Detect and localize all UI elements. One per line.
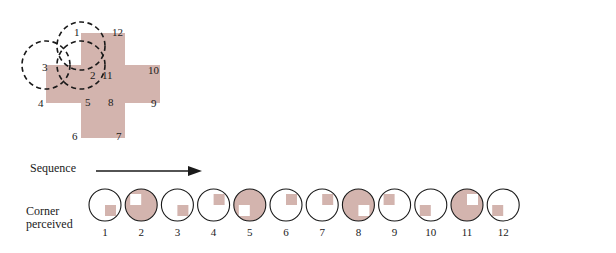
corner-sequence-label-4: 4 bbox=[204, 226, 224, 238]
corner-circle-patch-5 bbox=[239, 205, 250, 216]
corner-circle-4 bbox=[198, 189, 230, 221]
cross-vertex-label-8: 8 bbox=[108, 96, 114, 108]
cross-vertex-label-11: 11 bbox=[102, 69, 113, 81]
cross-vertex-label-10: 10 bbox=[148, 64, 159, 76]
cross-vertex-label-12: 12 bbox=[112, 26, 123, 38]
cross-vertex-label-6: 6 bbox=[72, 130, 78, 142]
cross-vertex-label-9: 9 bbox=[151, 97, 157, 109]
corner-circle-patch-4 bbox=[214, 194, 225, 205]
corner-circle-8 bbox=[342, 189, 374, 221]
corner-circle-9 bbox=[379, 189, 411, 221]
corner-sequence-row bbox=[0, 182, 616, 252]
corner-circle-11 bbox=[451, 189, 483, 221]
corner-circle-patch-2 bbox=[130, 194, 141, 205]
cross-vertex-label-5: 5 bbox=[85, 96, 91, 108]
corner-circle-3 bbox=[161, 189, 193, 221]
cross-vertex-label-4: 4 bbox=[38, 97, 44, 109]
corner-circle-patch-11 bbox=[467, 194, 478, 205]
corner-circle-patch-7 bbox=[322, 194, 333, 205]
cross-vertex-label-2: 2 bbox=[90, 69, 96, 81]
corner-sequence-label-1: 1 bbox=[95, 226, 115, 238]
corner-circle-12 bbox=[487, 189, 519, 221]
corner-sequence-label-7: 7 bbox=[312, 226, 332, 238]
corner-circle-patch-10 bbox=[420, 205, 431, 216]
corner-circle-5 bbox=[234, 189, 266, 221]
corner-sequence-label-11: 11 bbox=[457, 226, 477, 238]
cross-vertex-label-7: 7 bbox=[116, 130, 122, 142]
sequence-arrow-icon bbox=[96, 162, 316, 180]
corner-circle-patch-3 bbox=[177, 205, 188, 216]
corner-sequence-label-10: 10 bbox=[421, 226, 441, 238]
corner-sequence-label-2: 2 bbox=[131, 226, 151, 238]
sequence-label: Sequence bbox=[30, 161, 76, 176]
corner-circle-6 bbox=[270, 189, 302, 221]
corner-circle-patch-12 bbox=[492, 205, 503, 216]
corner-circle-10 bbox=[415, 189, 447, 221]
corner-sequence-label-12: 12 bbox=[493, 226, 513, 238]
corner-circle-patch-6 bbox=[286, 194, 297, 205]
figure-canvas: 123456789101112 Sequence Corner perceive… bbox=[0, 0, 616, 253]
corner-sequence-label-9: 9 bbox=[385, 226, 405, 238]
corner-circle-2 bbox=[125, 189, 157, 221]
corner-sequence-label-8: 8 bbox=[348, 226, 368, 238]
corner-circle-patch-1 bbox=[105, 205, 116, 216]
corner-circle-1 bbox=[89, 189, 121, 221]
cross-vertex-label-3: 3 bbox=[42, 61, 48, 73]
corner-sequence-label-6: 6 bbox=[276, 226, 296, 238]
corner-sequence-label-3: 3 bbox=[167, 226, 187, 238]
corner-circle-patch-9 bbox=[384, 194, 395, 205]
cross-vertex-label-1: 1 bbox=[74, 26, 80, 38]
corner-sequence-label-5: 5 bbox=[240, 226, 260, 238]
corner-circle-7 bbox=[306, 189, 338, 221]
corner-circle-patch-8 bbox=[358, 205, 369, 216]
